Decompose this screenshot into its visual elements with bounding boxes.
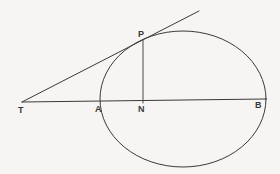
point-label-n: N [138, 104, 145, 114]
segment-tangent-line [22, 11, 199, 102]
point-label-p: P [138, 29, 144, 39]
point-label-t: T [18, 105, 24, 115]
point-label-a: A [95, 104, 102, 114]
geometry-figure: T A N B P [0, 0, 280, 174]
geometry-canvas: T A N B P [0, 0, 280, 174]
point-label-b: B [255, 100, 262, 110]
segment-tb-line [22, 99, 266, 102]
